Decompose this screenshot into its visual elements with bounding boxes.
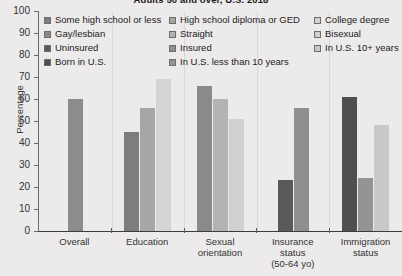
- legend-label: Straight: [180, 29, 213, 39]
- x-tick-label-line: status: [256, 247, 329, 258]
- x-tick-label-line: Overall: [38, 236, 111, 247]
- legend-label: Bisexual: [325, 29, 361, 39]
- x-tick-label: Insurancestatus(50-64 yo): [256, 232, 329, 276]
- legend-label: Insured: [180, 43, 212, 53]
- y-tick-label: 80: [0, 50, 30, 60]
- x-tick-label-line: orientation: [184, 247, 257, 258]
- bar: [140, 108, 155, 231]
- legend-item[interactable]: In U.S. less than 10 years: [169, 57, 314, 67]
- x-tick-label-line: (50-64 yo): [256, 258, 329, 269]
- x-tick-label-line: Sexual: [184, 236, 257, 247]
- y-tick-label: 30: [0, 160, 30, 170]
- y-tick-label: 100: [0, 6, 30, 16]
- chart-legend: Some high school or lessHigh school dipl…: [44, 13, 400, 69]
- y-tick-label: 10: [0, 204, 30, 214]
- x-axis-separator: [256, 228, 257, 233]
- bar: [124, 132, 139, 231]
- legend-swatch-icon: [314, 31, 321, 38]
- legend-item[interactable]: High school diploma or GED: [169, 15, 314, 25]
- bar: [374, 125, 389, 231]
- y-tick-label: 90: [0, 28, 30, 38]
- legend-swatch-icon: [169, 45, 176, 52]
- bar: [358, 178, 373, 231]
- y-tick-label: 60: [0, 94, 30, 104]
- legend-item[interactable]: Insured: [169, 43, 314, 53]
- bar: [294, 108, 309, 231]
- legend-swatch-icon: [314, 45, 321, 52]
- y-tick-label: 20: [0, 182, 30, 192]
- x-tick-label: Overall: [38, 232, 111, 276]
- y-tick-label: 0: [0, 226, 30, 236]
- bar-chart: Adults 50 and over, U.S. 2018 Percentage…: [0, 0, 402, 276]
- y-tick-label: 70: [0, 72, 30, 82]
- x-tick-label-line: Immigration: [329, 236, 402, 247]
- legend-item[interactable]: Straight: [169, 29, 314, 39]
- legend-item[interactable]: Some high school or less: [44, 15, 169, 25]
- x-tick-label: Education: [111, 232, 184, 276]
- legend-item[interactable]: College degree: [314, 15, 400, 25]
- x-axis-labels: OverallEducationSexualorientationInsuran…: [38, 232, 402, 276]
- y-tick-label: 50: [0, 116, 30, 126]
- legend-label: Uninsured: [55, 43, 98, 53]
- legend-swatch-icon: [44, 17, 51, 24]
- x-axis-separator: [184, 228, 185, 233]
- x-tick-label-line: Education: [111, 236, 184, 247]
- bar: [156, 79, 171, 231]
- legend-item[interactable]: Born in U.S.: [44, 57, 169, 67]
- legend-swatch-icon: [314, 17, 321, 24]
- legend-item[interactable]: In U.S. 10+ years: [314, 43, 400, 53]
- bar: [213, 99, 228, 231]
- legend-item[interactable]: Uninsured: [44, 43, 169, 53]
- x-axis-separator: [329, 228, 330, 233]
- legend-label: High school diploma or GED: [180, 15, 300, 25]
- y-tick-label: 40: [0, 138, 30, 148]
- legend-swatch-icon: [44, 31, 51, 38]
- legend-swatch-icon: [169, 17, 176, 24]
- legend-item[interactable]: Bisexual: [314, 29, 400, 39]
- legend-label: In U.S. less than 10 years: [180, 57, 289, 67]
- bar: [278, 180, 293, 231]
- y-axis-ticks: 0102030405060708090100: [0, 0, 30, 276]
- x-tick-label: Sexualorientation: [184, 232, 257, 276]
- x-tick-label-line: status: [329, 247, 402, 258]
- legend-swatch-icon: [44, 59, 51, 66]
- x-tick-label: Immigrationstatus: [329, 232, 402, 276]
- bar: [229, 119, 244, 231]
- legend-label: Some high school or less: [55, 15, 161, 25]
- x-axis-separator: [111, 228, 112, 233]
- bar: [342, 97, 357, 231]
- legend-item[interactable]: Gay/lesbian: [44, 29, 169, 39]
- legend-label: Gay/lesbian: [55, 29, 105, 39]
- legend-swatch-icon: [169, 31, 176, 38]
- legend-swatch-icon: [44, 45, 51, 52]
- legend-swatch-icon: [169, 59, 176, 66]
- bar: [197, 86, 212, 231]
- legend-label: College degree: [325, 15, 389, 25]
- bar: [68, 99, 83, 231]
- legend-label: Born in U.S.: [55, 57, 106, 67]
- x-tick-label-line: Insurance: [256, 236, 329, 247]
- legend-label: In U.S. 10+ years: [325, 43, 399, 53]
- chart-title: Adults 50 and over, U.S. 2018: [0, 0, 402, 5]
